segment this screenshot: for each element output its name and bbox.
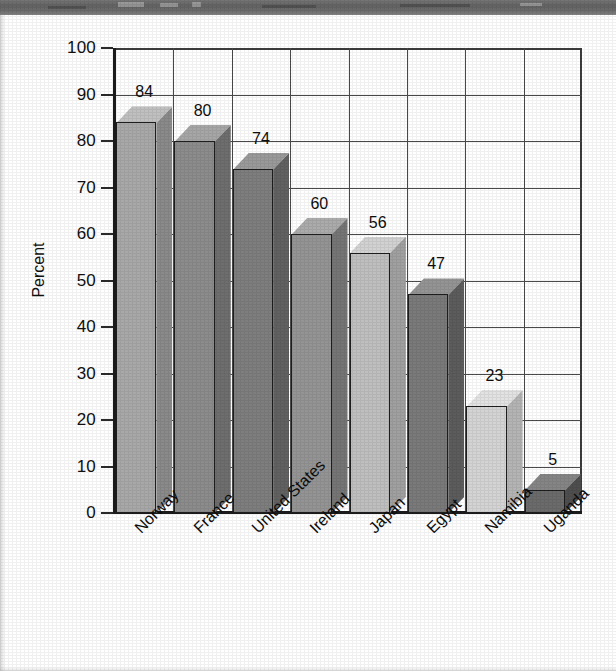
y-axis-tick-label: 90: [52, 86, 96, 103]
bar-side-face: [332, 218, 348, 513]
bar-front-face: [408, 294, 448, 513]
y-axis-tick: [101, 512, 113, 514]
y-axis-tick: [101, 373, 113, 375]
bar-value-label: 56: [358, 215, 398, 231]
bar-value-label: 74: [241, 131, 281, 147]
bar-side-face: [156, 106, 172, 513]
bar-edge: [466, 406, 506, 407]
bar-edge: [350, 253, 390, 254]
y-axis-tick: [101, 326, 113, 328]
y-axis-tick: [101, 280, 113, 282]
bar: [116, 106, 172, 513]
bar-value-label: 80: [183, 103, 223, 119]
bar-value-label: 60: [299, 196, 339, 212]
y-axis-title: Percent: [31, 225, 47, 315]
y-axis-tick-label: 0: [52, 504, 96, 521]
bar-value-label: 23: [474, 368, 514, 384]
y-axis-tick: [101, 233, 113, 235]
y-axis-tick-label: 40: [52, 318, 96, 335]
y-axis-tick-label: 10: [52, 458, 96, 475]
y-axis-tick: [101, 466, 113, 468]
bar-front-face: [350, 253, 390, 513]
bar-value-label: 84: [124, 84, 164, 100]
y-axis-tick-label: 60: [52, 225, 96, 242]
bar-front-face: [174, 141, 214, 513]
bar-edge: [408, 294, 448, 295]
y-axis-tick-label: 20: [52, 411, 96, 428]
y-axis-tick: [101, 419, 113, 421]
y-axis-tick: [101, 94, 113, 96]
bar-edge: [233, 169, 273, 170]
y-axis-tick-label: 70: [52, 179, 96, 196]
bar-front-face: [116, 122, 156, 513]
y-axis-tick: [101, 47, 113, 49]
y-axis-tick-label: 50: [52, 272, 96, 289]
bar-edge: [116, 122, 156, 123]
bar-edge: [291, 234, 331, 235]
bar-front-face: [466, 406, 506, 513]
bar: [174, 125, 230, 513]
y-axis-tick: [101, 187, 113, 189]
bar-side-face: [215, 125, 231, 513]
bar-value-label: 47: [416, 256, 456, 272]
bar: [350, 237, 406, 513]
bar-value-label: 5: [533, 452, 573, 468]
y-axis-tick-label: 30: [52, 365, 96, 382]
gridline-vertical: [524, 48, 525, 513]
y-axis-tick-label: 80: [52, 132, 96, 149]
y-axis-tick: [101, 140, 113, 142]
bar: [408, 278, 464, 513]
y-axis-tick-label: 100: [52, 39, 96, 56]
bar-side-face: [448, 278, 464, 513]
bar-edge: [174, 141, 214, 142]
bar-front-face: [233, 169, 273, 513]
bar-chart: Percent 0102030405060708090100 848074605…: [0, 0, 616, 671]
bar: [233, 153, 289, 513]
bar-side-face: [273, 153, 289, 513]
bar-side-face: [390, 237, 406, 513]
